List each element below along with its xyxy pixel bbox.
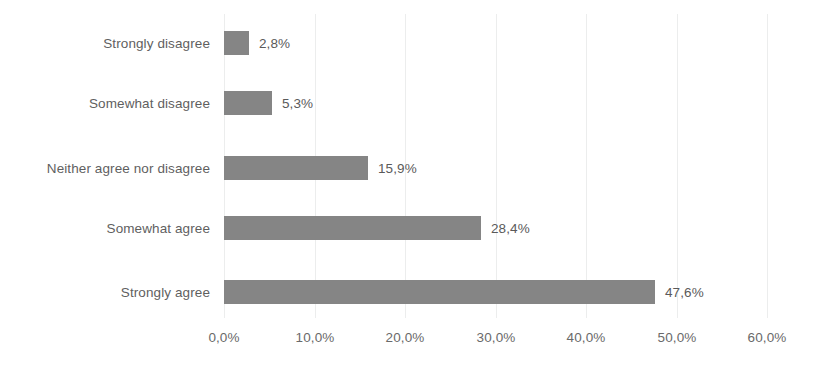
category-label: Strongly disagree bbox=[103, 36, 210, 51]
x-tick-label: 60,0% bbox=[748, 330, 787, 345]
x-tick-label: 20,0% bbox=[386, 330, 425, 345]
plot-area: Strongly disagree 2,8% Somewhat disagree… bbox=[0, 0, 822, 385]
bar-row: Somewhat agree 28,4% bbox=[0, 197, 822, 259]
bar-row: Somewhat disagree 5,3% bbox=[0, 72, 822, 134]
x-tick-label: 30,0% bbox=[477, 330, 516, 345]
bar[interactable] bbox=[224, 216, 481, 240]
bar-row: Strongly disagree 2,8% bbox=[0, 12, 822, 74]
bar[interactable] bbox=[224, 31, 249, 55]
bar-row: Strongly agree 47,6% bbox=[0, 261, 822, 323]
category-label: Strongly agree bbox=[121, 285, 210, 300]
category-label: Somewhat disagree bbox=[89, 96, 210, 111]
bar[interactable] bbox=[224, 91, 272, 115]
x-tick-label: 10,0% bbox=[296, 330, 335, 345]
bar-chart: Strongly disagree 2,8% Somewhat disagree… bbox=[0, 0, 822, 385]
bar[interactable] bbox=[224, 280, 655, 304]
category-label: Neither agree nor disagree bbox=[47, 161, 210, 176]
x-tick-label: 40,0% bbox=[567, 330, 606, 345]
bar-value-label: 15,9% bbox=[378, 161, 417, 176]
bar[interactable] bbox=[224, 156, 368, 180]
x-tick-label: 50,0% bbox=[658, 330, 697, 345]
bar-row: Neither agree nor disagree 15,9% bbox=[0, 137, 822, 199]
x-axis: 0,0% 10,0% 20,0% 30,0% 40,0% 50,0% 60,0% bbox=[0, 330, 822, 360]
bar-value-label: 2,8% bbox=[259, 36, 290, 51]
bar-value-label: 28,4% bbox=[491, 221, 530, 236]
category-label: Somewhat agree bbox=[107, 221, 210, 236]
x-tick-label: 0,0% bbox=[208, 330, 239, 345]
bar-value-label: 47,6% bbox=[665, 285, 704, 300]
bar-value-label: 5,3% bbox=[282, 96, 313, 111]
